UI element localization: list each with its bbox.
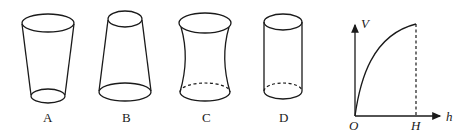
origin-label: O <box>349 118 359 133</box>
y-axis-label: V <box>361 16 371 31</box>
container-c <box>179 13 231 101</box>
x-axis-label: h <box>446 109 453 124</box>
diagram-canvas: A B C D V h O H <box>0 0 464 136</box>
label-c: C <box>202 110 211 125</box>
label-b: B <box>122 110 131 125</box>
container-a <box>22 14 74 103</box>
figure-svg: A B C D V h O H <box>0 0 464 136</box>
container-d <box>264 14 302 99</box>
v-h-curve <box>355 24 416 116</box>
label-d: D <box>279 110 288 125</box>
label-a: A <box>43 110 53 125</box>
container-b <box>99 11 151 101</box>
h-marker-label: H <box>410 118 421 133</box>
volume-height-graph <box>355 24 440 116</box>
